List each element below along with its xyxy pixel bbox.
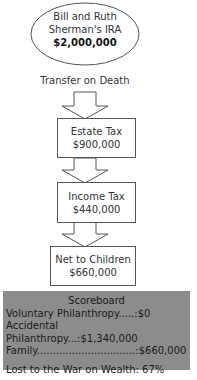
net-to-children-label: Net to Children	[51, 253, 135, 266]
income-tax-amount: $440,000	[58, 203, 135, 216]
net-to-children-amount: $660,000	[51, 266, 135, 279]
estate-tax-label: Estate Tax	[58, 125, 135, 138]
scoreboard: Scoreboard Voluntary Philanthropy.....:$…	[3, 291, 190, 370]
scoreboard-title: Scoreboard	[6, 295, 187, 308]
income-tax-label: Income Tax	[58, 190, 135, 203]
income-tax-box: Income Tax $440,000	[57, 182, 136, 223]
estate-tax-box: Estate Tax $900,000	[57, 118, 136, 158]
down-arrow-icon	[62, 92, 108, 119]
down-arrow-icon	[62, 158, 108, 183]
ira-owner-line1: Bill and Ruth	[31, 10, 139, 23]
ira-node: Bill and Ruth Sherman's IRA $2,000,000	[31, 10, 139, 49]
net-to-children-box: Net to Children $660,000	[50, 246, 136, 286]
scoreboard-row-family: Family...............................:$6…	[6, 345, 187, 358]
scoreboard-lost: Lost to the War on Wealth: 67%	[6, 364, 187, 377]
estate-tax-amount: $900,000	[58, 138, 135, 151]
scoreboard-row-accidental: Accidental Philanthropy...:$1,340,000	[6, 320, 187, 345]
ira-amount: $2,000,000	[31, 36, 139, 49]
down-arrow-icon	[62, 222, 108, 247]
scoreboard-row-voluntary: Voluntary Philanthropy.....:$0	[6, 308, 187, 321]
transfer-label: Transfer on Death	[30, 74, 140, 87]
ira-owner-line2: Sherman's IRA	[31, 23, 139, 36]
